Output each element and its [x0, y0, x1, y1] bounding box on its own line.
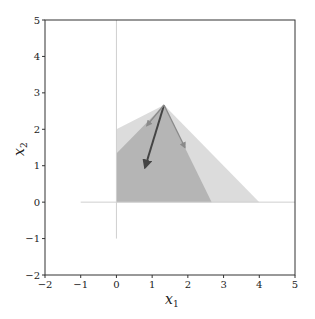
- y-tick-label: 0: [34, 197, 40, 208]
- y-tick-label: 2: [34, 124, 40, 135]
- x-tick-label: −1: [73, 279, 88, 290]
- y-tick-label: 4: [34, 51, 40, 62]
- x-tick-label: 0: [113, 279, 119, 290]
- y-tick-label: 3: [34, 87, 40, 98]
- plot-area: [81, 20, 295, 239]
- x-tick-label: −2: [38, 279, 53, 290]
- y-tick-label: −2: [25, 270, 40, 281]
- x-axis-label: x1: [165, 291, 179, 309]
- x-tick-label: 4: [256, 279, 262, 290]
- y-tick-label: 1: [34, 160, 40, 171]
- x-tick-label: 1: [149, 279, 155, 290]
- y-axis-label: x2: [11, 142, 29, 156]
- chart: −2−1012345−2−1012345 x1 x2: [0, 0, 315, 319]
- y-tick-label: −1: [25, 233, 40, 244]
- x-tick-label: 5: [292, 279, 298, 290]
- y-tick-label: 5: [34, 15, 40, 26]
- x-tick-label: 2: [185, 279, 191, 290]
- x-tick-label: 3: [220, 279, 226, 290]
